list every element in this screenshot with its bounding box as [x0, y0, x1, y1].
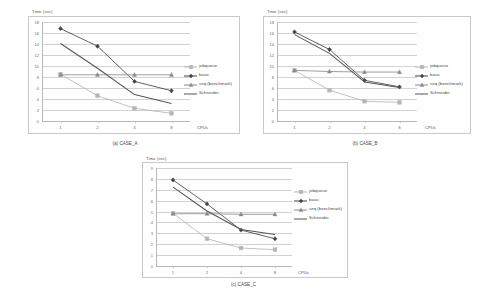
series-line [295, 70, 400, 102]
legend-item[interactable]: jobqueue [415, 62, 463, 71]
legend-swatch [415, 90, 428, 97]
series-line [173, 180, 275, 239]
legend-item-label: Schneider [309, 216, 329, 220]
series-layer [122, 156, 365, 299]
data-point-marker [133, 106, 137, 110]
legend-item-label: seq (benchmark) [309, 207, 342, 211]
legend-item-label: seq (benchmark) [199, 82, 232, 86]
legend-swatch [415, 81, 428, 88]
chart-panel-case-c: Time (sec)98765432101248CPUsjobqueuebasi… [122, 156, 365, 299]
legend-item[interactable]: Schneider [294, 214, 342, 223]
legend-item[interactable]: jobqueue [294, 187, 342, 196]
legend-item[interactable]: basic [294, 196, 342, 205]
legend-item-label: Schneider [199, 91, 219, 95]
legend-item-label: basic [309, 198, 319, 202]
series-line [173, 214, 275, 215]
chart-area-a: Time (sec)1816141210864201248CPUsjobqueu… [6, 4, 244, 154]
chart-legend: jobqueuebasicseq (benchmark)Schneider [415, 62, 463, 98]
figure-three-line-charts: Time (sec)1816141210864201248CPUsjobqueu… [0, 0, 483, 301]
legend-item-label: jobqueue [199, 64, 217, 68]
legend-item[interactable]: jobqueue [184, 62, 232, 71]
legend-swatch [415, 72, 428, 79]
legend-item-label: Schneider [430, 91, 450, 95]
legend-item[interactable]: seq (benchmark) [184, 80, 232, 89]
chart-caption: (b) CASE_B [247, 141, 483, 146]
chart-caption: (c) CASE_C [122, 282, 365, 287]
legend-item[interactable]: seq (benchmark) [294, 205, 342, 214]
legend-marker-triangle [187, 81, 194, 88]
legend-item-label: jobqueue [309, 189, 327, 193]
data-point-marker [293, 30, 297, 34]
data-point-marker [273, 237, 277, 241]
legend-item[interactable]: Schneider [415, 89, 463, 98]
legend-marker-square [187, 63, 194, 70]
data-point-marker [239, 246, 243, 250]
legend-swatch [294, 215, 307, 222]
legend-marker-triangle [418, 81, 425, 88]
data-point-marker [328, 88, 332, 92]
legend-item[interactable]: basic [184, 71, 232, 80]
legend-item-label: basic [199, 73, 209, 77]
chart-area-c: Time (sec)98765432101248CPUsjobqueuebasi… [122, 156, 365, 299]
legend-swatch [294, 197, 307, 204]
legend-swatch [294, 188, 307, 195]
legend-marker-triangle [297, 206, 304, 213]
legend-item[interactable]: seq (benchmark) [415, 80, 463, 89]
series-line [173, 213, 275, 249]
legend-marker-diamond [187, 72, 194, 79]
chart-panel-case-a: Time (sec)1816141210864201248CPUsjobqueu… [6, 4, 244, 154]
legend-marker-diamond [418, 72, 425, 79]
data-point-marker [398, 100, 402, 104]
chart-legend: jobqueuebasicseq (benchmark)Schneider [294, 187, 342, 223]
chart-legend: jobqueuebasicseq (benchmark)Schneider [184, 62, 232, 98]
legend-marker-square [418, 63, 425, 70]
chart-area-b: Time (sec)1816141210864201248CPUsjobqueu… [247, 4, 483, 154]
legend-marker-square [297, 188, 304, 195]
legend-item[interactable]: basic [415, 71, 463, 80]
series-line [61, 43, 172, 103]
chart-panel-case-b: Time (sec)1816141210864201248CPUsjobqueu… [247, 4, 483, 154]
legend-item[interactable]: Schneider [184, 89, 232, 98]
series-line [295, 32, 400, 87]
data-point-marker [170, 111, 174, 115]
series-line [173, 187, 275, 234]
series-line [61, 74, 172, 113]
legend-item-label: jobqueue [430, 64, 448, 68]
data-point-marker [273, 248, 277, 252]
data-point-marker [363, 99, 367, 103]
legend-swatch [184, 72, 197, 79]
legend-swatch [294, 206, 307, 213]
data-point-marker [96, 94, 100, 98]
chart-caption: (a) CASE_A [6, 141, 244, 146]
legend-swatch [184, 63, 197, 70]
data-point-marker [170, 89, 174, 93]
legend-swatch [415, 63, 428, 70]
data-point-marker [59, 26, 63, 30]
legend-swatch [184, 90, 197, 97]
legend-item-label: basic [430, 73, 440, 77]
legend-swatch [184, 81, 197, 88]
legend-marker-diamond [297, 197, 304, 204]
data-point-marker [171, 178, 175, 182]
legend-item-label: seq (benchmark) [430, 82, 463, 86]
series-line [295, 70, 400, 72]
data-point-marker [205, 237, 209, 241]
